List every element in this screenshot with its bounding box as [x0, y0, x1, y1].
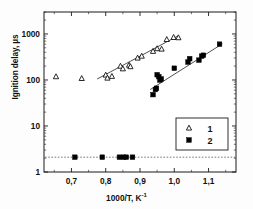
x-axis-label-exponent: -1	[142, 192, 147, 198]
legend-marker-series-2	[187, 138, 192, 143]
y-tick-label: 1	[35, 167, 40, 177]
y-tick-label: 100	[26, 75, 40, 85]
data-point-square	[124, 155, 129, 160]
chart-canvas: 11010010000,70,80,91,01,112	[0, 0, 253, 209]
x-axis-label: 1000/T, K-1	[0, 192, 253, 203]
x-tick-label: 0,8	[100, 176, 112, 186]
data-point-square	[100, 155, 105, 160]
data-point-square	[154, 86, 159, 91]
x-axis-label-base: 1000/T, K	[106, 193, 142, 203]
legend-label-series-2: 2	[207, 136, 212, 146]
data-point-square	[172, 66, 177, 71]
x-tick-label: 0,9	[134, 176, 146, 186]
legend-box[interactable]	[176, 118, 228, 150]
data-point-square	[151, 92, 156, 97]
figure: 11010010000,70,80,91,01,112 Ignition del…	[0, 0, 253, 209]
y-axis-label: Ignition delay, µs	[10, 25, 20, 109]
x-tick-label: 1,0	[169, 176, 181, 186]
data-point-square	[217, 42, 222, 47]
x-tick-label: 0,7	[66, 176, 78, 186]
data-point-square	[130, 155, 135, 160]
data-point-square	[187, 56, 192, 61]
y-tick-label: 10	[31, 121, 41, 131]
y-tick-label: 1000	[22, 29, 41, 39]
data-point-square	[159, 77, 164, 82]
legend-label-series-1: 1	[207, 124, 212, 134]
x-tick-label: 1,1	[203, 176, 215, 186]
data-point-square	[73, 155, 78, 160]
data-point-square	[201, 53, 206, 58]
